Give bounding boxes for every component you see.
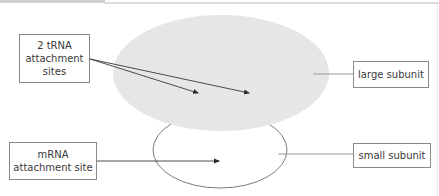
large-subunit-label: large subunit [353, 61, 429, 88]
small-subunit-label: small subunit [353, 143, 431, 168]
mrna-site-label: mRNA attachment site [9, 142, 97, 180]
trna-sites-text: 2 tRNA attachment sites [20, 39, 89, 78]
large-subunit-text: large subunit [358, 68, 424, 81]
small-subunit-text: small subunit [358, 149, 425, 162]
trna-sites-label: 2 tRNA attachment sites [19, 34, 90, 83]
large-subunit-shape [113, 15, 329, 131]
mrna-site-text: mRNA attachment site [10, 148, 96, 174]
